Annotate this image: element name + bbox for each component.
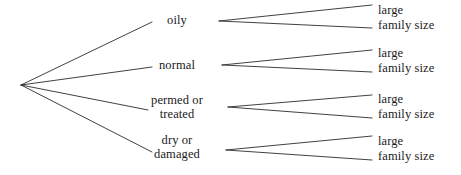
tree-diagram-canvas: oily normal permed or treated dry or dam…	[0, 0, 461, 175]
node-label-permed-or-treated: permed or treated	[151, 94, 203, 121]
node-label-permed-line2: treated	[151, 108, 203, 122]
leaf-label-dry-family-size: family size	[378, 150, 434, 164]
leaf-label-permed-large: large	[378, 93, 403, 107]
node-label-dry-line2: damaged	[154, 148, 200, 162]
leaf-label-dry-large: large	[378, 135, 403, 149]
leaf-label-normal-family-size: family size	[378, 62, 434, 76]
leaf-label-oily-family-size: family size	[378, 19, 434, 33]
node-label-dry-line1: dry or	[162, 133, 193, 147]
node-label-normal: normal	[159, 59, 195, 73]
leaf-label-permed-family-size: family size	[378, 108, 434, 122]
node-label-permed-line1: permed or	[151, 93, 203, 107]
node-label-oily-line1: oily	[167, 13, 187, 27]
leaf-label-normal-large: large	[378, 47, 403, 61]
leaf-label-oily-large: large	[378, 4, 403, 18]
node-label-oily: oily	[167, 14, 187, 28]
node-label-normal-line1: normal	[159, 58, 195, 72]
node-label-dry-or-damaged: dry or damaged	[154, 134, 200, 161]
